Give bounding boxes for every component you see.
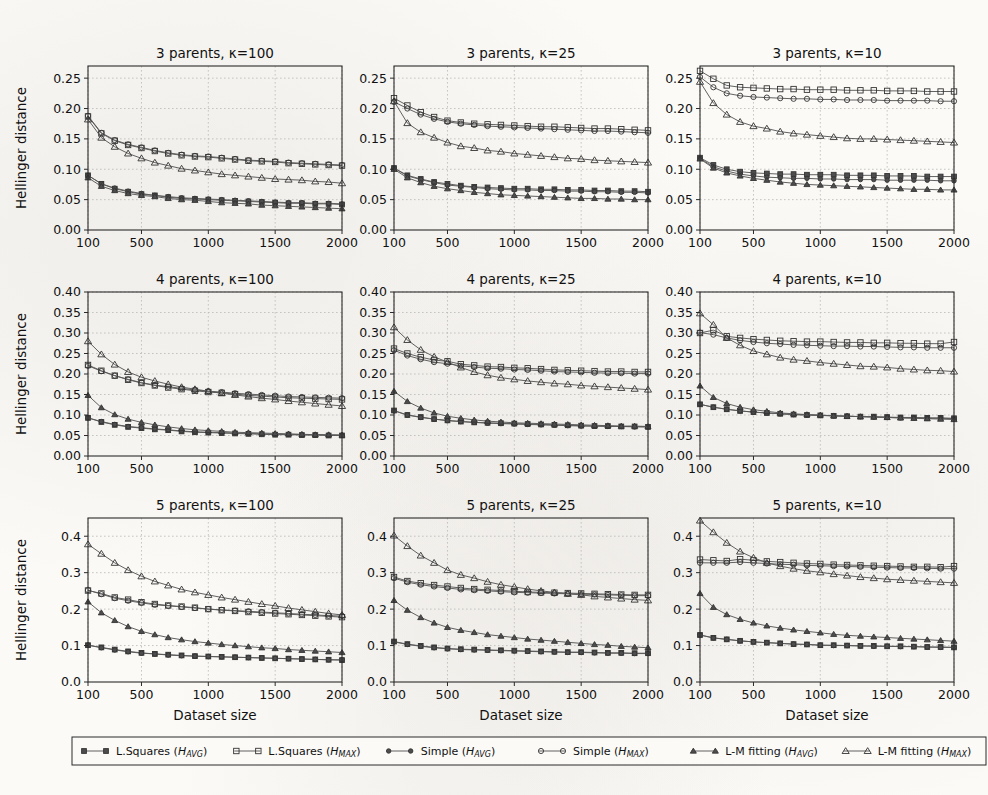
chart-panel-8: 5 parents, κ=250.00.10.20.30.41005001000…	[367, 497, 664, 723]
data-point-marker	[300, 657, 304, 661]
x-tick-label: 2000	[938, 687, 970, 702]
data-point-marker	[872, 177, 876, 181]
data-point-marker	[139, 425, 143, 429]
legend-label-tail: )	[645, 745, 649, 758]
x-tick-label: 1000	[804, 461, 836, 476]
legend-label-text: L.Squares (	[116, 745, 178, 758]
series-filled-triangle	[697, 591, 957, 644]
y-tick-label: 0.35	[53, 305, 81, 320]
data-point-marker	[858, 644, 862, 648]
data-point-marker	[632, 190, 636, 194]
series-line	[88, 341, 342, 406]
y-tick-label: 0.30	[53, 325, 81, 340]
x-tick-label: 500	[436, 687, 460, 702]
legend-label-subscript: MAX	[338, 750, 356, 759]
data-point-marker	[99, 646, 103, 650]
data-point-marker	[432, 417, 436, 421]
series-open-circle	[85, 363, 344, 401]
data-point-marker	[525, 649, 529, 653]
data-point-marker	[219, 655, 223, 659]
y-tick-label: 0.40	[665, 284, 693, 299]
data-point-marker	[592, 651, 596, 655]
data-point-marker	[472, 648, 476, 652]
data-point-marker	[539, 650, 543, 654]
x-tick-label: 100	[76, 235, 100, 250]
y-tick-label: 0.10	[53, 407, 81, 422]
legend-label-h: H	[466, 745, 474, 758]
data-point-marker	[525, 188, 529, 192]
y-tick-label: 0.1	[61, 638, 81, 653]
data-point-marker	[512, 649, 516, 653]
x-tick-label: 100	[382, 461, 406, 476]
x-tick-label: 500	[436, 461, 460, 476]
y-tick-label: 0.1	[367, 638, 387, 653]
legend-label-text: L-M fitting (	[878, 745, 941, 758]
y-tick-label: 0.25	[359, 346, 387, 361]
x-tick-label: 1000	[498, 461, 530, 476]
data-point-marker	[246, 655, 250, 659]
legend-label-tail: )	[203, 745, 207, 758]
chart-panel-3: 3 parents, κ=100.000.050.100.150.200.251…	[665, 45, 970, 250]
x-tick-label: 2000	[938, 461, 970, 476]
data-point-marker	[405, 413, 409, 417]
y-tick-label: 0.2	[61, 602, 81, 617]
data-point-marker	[326, 658, 330, 662]
data-point-marker	[765, 640, 769, 644]
legend-marker-lsquares-avg	[104, 749, 109, 754]
series-filled-triangle	[391, 388, 651, 428]
chart-panel-1: 3 parents, κ=1000.000.050.100.150.200.25…	[13, 45, 358, 250]
series-filled-triangle	[697, 156, 957, 192]
x-tick-label: 1500	[259, 461, 291, 476]
x-tick-label: 2000	[326, 687, 358, 702]
panel-frame	[700, 292, 954, 456]
panel-title: 5 parents, κ=10	[772, 497, 881, 513]
y-axis-label: Hellinger distance	[13, 313, 29, 435]
x-tick-label: 500	[130, 461, 154, 476]
y-tick-label: 0.10	[359, 162, 387, 177]
data-point-marker	[725, 637, 729, 641]
series-filled-triangle	[391, 598, 651, 650]
data-point-marker	[898, 178, 902, 182]
data-point-marker	[805, 176, 809, 180]
y-tick-label: 0.05	[665, 428, 693, 443]
y-tick-label: 0.10	[665, 407, 693, 422]
y-axis-label: Hellinger distance	[13, 87, 29, 209]
data-point-marker	[845, 643, 849, 647]
y-tick-label: 0.20	[53, 366, 81, 381]
data-point-marker	[818, 643, 822, 647]
data-point-marker	[579, 650, 583, 654]
data-point-marker	[419, 415, 423, 419]
series-open-circle	[85, 113, 344, 167]
data-point-marker	[459, 647, 463, 651]
data-point-marker	[885, 644, 889, 648]
x-tick-label: 2000	[632, 461, 664, 476]
y-tick-label: 0.05	[53, 192, 81, 207]
legend-label-h: H	[178, 745, 186, 758]
y-tick-label: 0.4	[61, 529, 81, 544]
data-point-marker	[499, 187, 503, 191]
y-tick-label: 0.40	[359, 284, 387, 299]
data-point-marker	[711, 405, 715, 409]
series-filled-triangle	[85, 599, 345, 655]
legend-label-h: H	[789, 745, 797, 758]
data-point-marker	[606, 189, 610, 193]
data-point-marker	[845, 177, 849, 181]
data-point-marker	[112, 618, 118, 623]
x-axis-label: Dataset size	[785, 707, 868, 723]
x-tick-label: 100	[688, 687, 712, 702]
series-open-square	[85, 114, 344, 169]
legend-label-h: H	[941, 745, 949, 758]
data-point-marker	[912, 178, 916, 182]
data-point-marker	[898, 644, 902, 648]
panel-title: 3 parents, κ=100	[156, 45, 274, 61]
data-point-marker	[724, 401, 730, 406]
x-tick-label: 500	[436, 235, 460, 250]
x-tick-label: 2000	[326, 461, 358, 476]
y-tick-label: 0.40	[53, 284, 81, 299]
series-open-square	[85, 588, 344, 620]
legend-label-subscript: AVG	[185, 750, 203, 759]
x-tick-label: 100	[76, 687, 100, 702]
data-point-marker	[711, 636, 715, 640]
panel-title: 4 parents, κ=10	[772, 271, 881, 287]
y-tick-label: 0.20	[359, 366, 387, 381]
